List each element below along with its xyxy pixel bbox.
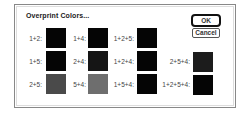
swatch-label: 1+4: bbox=[56, 35, 86, 42]
color-swatch-1-2-4[interactable] bbox=[137, 51, 157, 71]
swatch-label: 2+5+4: bbox=[158, 58, 190, 65]
swatch-label: 1+2+5+4: bbox=[154, 81, 190, 88]
swatch-label: 1+5: bbox=[12, 58, 42, 65]
color-swatch-2-5-4[interactable] bbox=[193, 52, 213, 72]
color-swatch-1-2-5-4[interactable] bbox=[193, 75, 213, 95]
color-swatch-1-2-5[interactable] bbox=[137, 28, 157, 48]
swatch-label: 1+5+4: bbox=[104, 81, 134, 88]
cancel-button[interactable]: Cancel bbox=[192, 28, 220, 38]
swatch-label: 1+2+5: bbox=[104, 35, 134, 42]
swatch-label: 2+4: bbox=[56, 58, 86, 65]
swatch-label: 1+2+4: bbox=[104, 58, 134, 65]
swatch-label: 1+2: bbox=[12, 35, 42, 42]
ok-button[interactable]: OK bbox=[191, 14, 221, 27]
dialog-title: Overprint Colors... bbox=[26, 12, 89, 19]
swatch-label: 5+4: bbox=[56, 81, 86, 88]
swatch-label: 2+5: bbox=[12, 81, 42, 88]
